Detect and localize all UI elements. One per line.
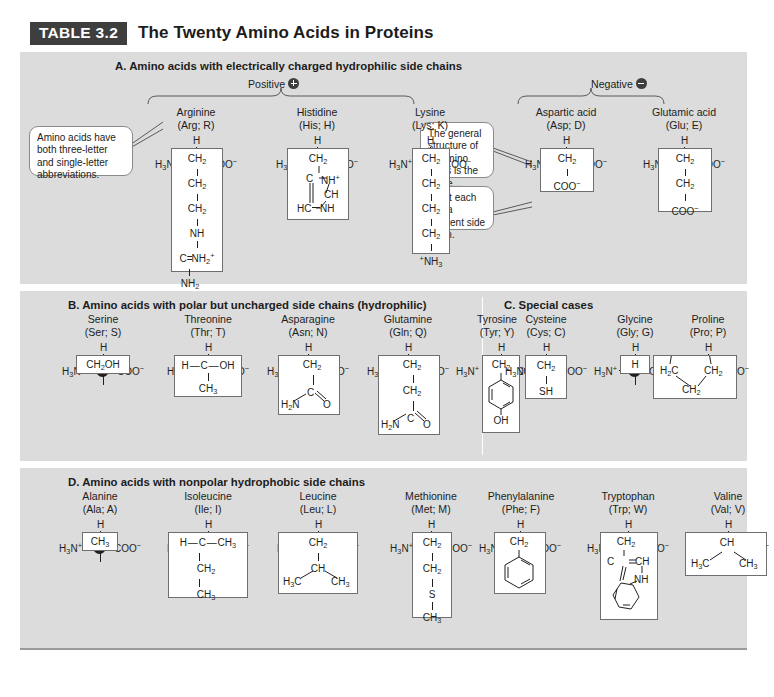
amino-acid-name: Isoleucine	[160, 490, 256, 503]
side-chain-box: CH2 CH2 CH2 CH2 +NH3	[412, 148, 450, 254]
indole-ring-icon	[601, 533, 659, 621]
amino-acid-abbr: (His; H)	[269, 119, 365, 132]
amino-acid-isoleucine: Isoleucine (Ile; I) H H3N+ COO− H — C — …	[160, 490, 256, 560]
amino-acid-name: Alanine	[52, 490, 148, 503]
side-chain-box: H	[620, 355, 650, 374]
amino-acid-name: Threonine	[160, 313, 256, 326]
side-chain-box: CH H3C CH3	[685, 532, 767, 576]
amino-acid-abbr: (Glu; E)	[636, 119, 732, 132]
amino-acid-name: Asparagine	[260, 313, 356, 326]
amino-acid-lysine: Lysine (Lys; K) H H3N+ COO− CH2 CH2 CH2 …	[382, 106, 478, 176]
side-chain-box: CH2 SH	[525, 355, 567, 399]
backbone-amino: H3N+	[390, 541, 413, 556]
side-chain-box: CH2 CH2 CH2 NH C=NH2+ NH2	[171, 148, 223, 272]
side-chain-box: CH2OH	[76, 355, 130, 374]
backbone-h: H	[543, 342, 550, 353]
amino-acid-histidine: Histidine (His; H) H H3N+ COO− CH2	[269, 106, 365, 176]
section-a-panel: A. Amino acids with electrically charged…	[20, 52, 747, 284]
section-d-panel: D. Amino acids with nonpolar hydrophobic…	[20, 468, 747, 650]
table-figure: TABLE 3.2 The Twenty Amino Acids in Prot…	[20, 22, 747, 650]
backbone-h: H	[563, 135, 570, 146]
amino-acid-aspartic-acid: Aspartic acid (Asp; D) H H3N+ COO− CH2 C…	[518, 106, 614, 176]
amino-acid-serine: Serine (Ser; S) H H3N+ COO− CH2OH	[55, 313, 151, 383]
amino-acid-name: Arginine	[148, 106, 244, 119]
backbone-amino: H3N+	[456, 364, 479, 379]
side-chain-box: CH2 CH2 S CH3	[412, 532, 452, 618]
amino-acid-name: Aspartic acid	[518, 106, 614, 119]
amino-acid-methionine: Methionine (Met; M) H H3N+ COO− CH2 CH2 …	[383, 490, 479, 560]
amino-acid-abbr: (Gln; Q)	[360, 326, 456, 339]
backbone-h: H	[205, 342, 212, 353]
amino-acid-abbr: (Ala; A)	[52, 503, 148, 516]
callout-abbreviations: Amino acids have both three-letter and s…	[29, 126, 133, 176]
amino-acid-threonine: Threonine (Thr; T) H H3N+ COO− H — C — O…	[160, 313, 256, 383]
amino-acid-abbr: (Thr; T)	[160, 326, 256, 339]
amino-acid-abbr: (Ile; I)	[160, 503, 256, 516]
amino-acid-abbr: (Val; V)	[680, 503, 774, 516]
amino-acid-proline: Proline (Pro; P) H H3N+ COO− H2C CH2	[660, 313, 756, 383]
section-b-heading: B. Amino acids with polar but uncharged …	[20, 291, 747, 313]
amino-acid-name: Methionine	[383, 490, 479, 503]
side-chain-box: CH2 C NH+ CH HC NH	[287, 148, 349, 220]
amino-acid-name: Glutamic acid	[636, 106, 732, 119]
amino-acid-abbr: (Lys; K)	[382, 119, 478, 132]
backbone-h: H	[100, 342, 107, 353]
amino-acid-name: Tryptophan	[580, 490, 676, 503]
side-chain-box: H2C CH2 CH2	[653, 355, 737, 399]
backbone-h: H	[725, 519, 732, 530]
side-chain-box: H — C — OH CH3	[174, 355, 242, 397]
amino-acid-abbr: (Cys; C)	[498, 326, 594, 339]
backbone-amino: H3N+	[59, 541, 82, 556]
side-chain-box: CH3	[82, 532, 118, 551]
amino-acid-abbr: (Asn; N)	[260, 326, 356, 339]
section-d-heading: D. Amino acids with nonpolar hydrophobic…	[20, 468, 747, 490]
backbone-h: H	[681, 135, 688, 146]
amino-acid-asparagine: Asparagine (Asn; N) H H3N+ COO− CH2 C	[260, 313, 356, 383]
amino-acid-name: Valine	[680, 490, 774, 503]
backbone-h: H	[405, 342, 412, 353]
amino-acid-abbr: (Arg; R)	[148, 119, 244, 132]
side-chain-box: CH2 C CH NH	[600, 532, 658, 620]
side-chain-box: CH2 C H2N O	[278, 355, 340, 415]
backbone-h: H	[427, 135, 434, 146]
amino-acid-abbr: (Trp; W)	[580, 503, 676, 516]
amino-acid-name: Cysteine	[498, 313, 594, 326]
amino-acid-leucine: Leucine (Leu; L) H H3N+ COO− CH2 CH H3C …	[270, 490, 366, 560]
table-number-badge: TABLE 3.2	[30, 22, 127, 45]
side-chain-box: CH2 CH2 COO−	[658, 148, 712, 212]
backbone-h: H	[305, 342, 312, 353]
amino-acid-name: Histidine	[269, 106, 365, 119]
amino-acid-alanine: Alanine (Ala; A) H H3N+ COO− CH3	[52, 490, 148, 560]
side-chain-box: CH2	[494, 532, 546, 594]
backbone-h: H	[632, 342, 639, 353]
section-c-heading: C. Special cases	[490, 291, 593, 313]
amino-acid-name: Glutamine	[360, 313, 456, 326]
backbone-h: H	[625, 519, 632, 530]
amino-acid-arginine: Arginine (Arg; R) H H3N+ COO− CH2 CH2 CH…	[148, 106, 244, 176]
amino-acid-name: Proline	[660, 313, 756, 326]
table-title-row: TABLE 3.2 The Twenty Amino Acids in Prot…	[20, 22, 747, 52]
amino-acid-abbr: (Pro; P)	[660, 326, 756, 339]
amino-acid-abbr: (Met; M)	[383, 503, 479, 516]
backbone-amino: H3N+	[389, 157, 412, 172]
amino-acid-abbr: (Ser; S)	[55, 326, 151, 339]
backbone-h: H	[705, 342, 712, 353]
benzene-ring-icon	[495, 533, 547, 595]
amino-acid-name: Phenylalanine	[466, 490, 576, 503]
backbone-h: H	[97, 519, 104, 530]
amino-acid-abbr: (Asp; D)	[518, 119, 614, 132]
amino-acid-name: Lysine	[382, 106, 478, 119]
side-chain-box: CH2 CH H3C CH3	[278, 532, 358, 594]
amino-acid-name: Leucine	[270, 490, 366, 503]
page-title: The Twenty Amino Acids in Proteins	[138, 23, 434, 43]
amino-acid-name: Serine	[55, 313, 151, 326]
amino-acid-phenylalanine: Phenylalanine (Phe; F) H H3N+ COO− CH2	[472, 490, 576, 560]
amino-acid-glutamine: Glutamine (Gln; Q) H H3N+ COO− CH2 CH2 C	[360, 313, 456, 383]
backbone-h: H	[517, 519, 524, 530]
backbone-h: H	[193, 135, 200, 146]
amino-acid-tryptophan: Tryptophan (Trp; W) H H3N+ COO− CH2	[580, 490, 676, 560]
side-chain-box: CH2 COO−	[540, 148, 594, 192]
section-bc-panel: B. Amino acids with polar but uncharged …	[20, 291, 747, 461]
backbone-h: H	[315, 519, 322, 530]
side-chain-box: H — C — CH3 CH2 CH3	[168, 532, 248, 598]
